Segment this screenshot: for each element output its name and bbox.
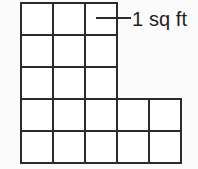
grid-cell [117, 131, 149, 163]
grid-cell [53, 131, 85, 163]
grid-cell [53, 3, 85, 35]
grid-cell [21, 131, 53, 163]
grid-cell [21, 35, 53, 67]
unit-area-label: 1 sq ft [132, 8, 188, 30]
grid-cell [85, 67, 117, 99]
figure-container: 1 sq ft [0, 0, 198, 169]
grid-cell [85, 99, 117, 131]
grid-cell [53, 99, 85, 131]
grid-cell [149, 131, 181, 163]
grid-cell [85, 131, 117, 163]
grid-figure: 1 sq ft [0, 0, 198, 169]
grid-cell [85, 3, 117, 35]
grid-cell [85, 35, 117, 67]
grid-cell [21, 99, 53, 131]
grid-cell [53, 35, 85, 67]
grid-cell [117, 99, 149, 131]
grid-cell [149, 99, 181, 131]
grid-cell [53, 67, 85, 99]
grid-cell [21, 3, 53, 35]
grid-cell [21, 67, 53, 99]
